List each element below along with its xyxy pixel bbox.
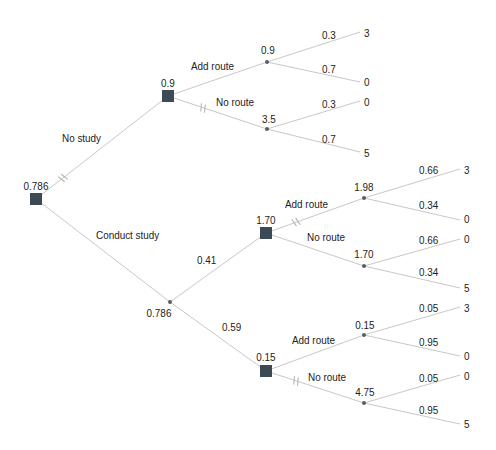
branch-no-study [36,96,168,199]
payoff-c5-1: 3 [464,302,470,314]
decision-value-unfavorable: 0.15 [256,351,275,363]
chance-node-study [168,300,172,304]
payoff-c6-2: 5 [464,418,470,430]
label-no-route-1: No route [216,96,254,108]
payoff-c4-1: 0 [464,233,470,245]
branch-unfavorable [170,302,266,371]
payoff-c4-2: 5 [464,282,470,294]
chance-node-c4 [362,264,366,268]
chance-value-c3: 1.98 [354,181,373,193]
label-add-route-2: Add route [285,198,328,210]
payoff-c2-2: 5 [364,147,370,159]
branch-favorable [170,233,266,302]
chance-node-c2 [265,127,269,131]
prob-c3-2: 0.34 [419,199,438,211]
payoff-c5-2: 0 [464,350,470,362]
payoff-c2-1: 0 [364,96,370,108]
payoff-c1-1: 3 [364,27,370,39]
prob-c6-2: 0.95 [419,404,438,416]
label-no-route-3: No route [308,371,346,383]
prob-c5-1: 0.05 [419,302,438,314]
payoff-c1-2: 0 [364,76,370,88]
prob-c3-1: 0.66 [419,164,438,176]
label-no-route-2: No route [307,231,345,243]
chance-value-c2: 3.5 [262,113,276,125]
tree-branches [36,32,460,424]
prob-c2-1: 0.3 [322,98,336,110]
prob-c2-2: 0.7 [322,133,336,145]
chance-node-c6 [362,401,366,405]
prob-c5-2: 0.95 [419,336,438,348]
chance-node-c5 [362,333,366,337]
label-add-route-1: Add route [191,60,234,72]
prob-unfavorable: 0.59 [222,321,241,333]
chance-node-c1 [265,60,269,64]
branch-conduct-study [36,199,170,302]
decision-value-favorable: 1.70 [256,214,275,226]
label-no-study: No study [62,132,101,144]
label-conduct-study: Conduct study [96,229,159,241]
chance-value-study: 0.786 [147,307,172,319]
chance-node-c3 [362,196,366,200]
prob-c4-1: 0.66 [419,234,438,246]
prob-c1-1: 0.3 [322,29,336,41]
decision-node-unfavorable [260,365,272,377]
prob-c1-2: 0.7 [322,63,336,75]
payoff-c6-1: 0 [464,370,470,382]
chance-value-c1: 0.9 [261,44,275,56]
prob-favorable: 0.41 [197,254,216,266]
decision-value-no-study: 0.9 [161,77,175,89]
root-value: 0.786 [24,180,49,192]
label-add-route-3: Add route [292,334,335,346]
chance-value-c6: 4.75 [355,386,374,398]
payoff-c3-1: 3 [464,164,470,176]
decision-node-no-study [162,90,174,102]
decision-node-root [30,193,42,205]
prob-c6-1: 0.05 [419,372,438,384]
chance-value-c5: 0.15 [355,319,374,331]
chance-value-c4: 1.70 [354,248,373,260]
payoff-c3-2: 0 [464,213,470,225]
prob-c4-2: 0.34 [419,266,438,278]
decision-node-favorable [260,227,272,239]
